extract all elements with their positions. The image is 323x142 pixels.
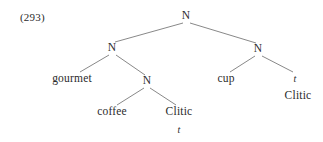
tree-node-clitic-right: Clitic xyxy=(285,90,312,102)
tree-node-trace-mid: t xyxy=(178,125,181,135)
tree-branch-left-n-to-gourmet xyxy=(80,55,109,72)
tree-node-trace-right: t xyxy=(294,74,297,84)
tree-branch-right-n-to-trace-right xyxy=(262,56,293,72)
tree-node-right-n: N xyxy=(254,43,263,55)
tree-branch-mid-n-to-coffee xyxy=(117,88,144,105)
tree-branch-mid-n-to-clitic-mid xyxy=(150,88,176,105)
tree-node-gourmet: gourmet xyxy=(52,73,92,85)
tree-node-coffee: coffee xyxy=(97,106,127,118)
tree-node-cup: cup xyxy=(217,73,234,85)
tree-node-mid-n: N xyxy=(143,75,152,87)
tree-branches xyxy=(0,0,323,142)
tree-branch-left-n-to-mid-n xyxy=(116,55,145,75)
tree-branch-right-n-to-cup xyxy=(230,56,255,72)
tree-branch-root-to-right-n xyxy=(190,23,256,43)
tree-branch-root-to-left-n xyxy=(115,23,183,42)
tree-node-left-n: N xyxy=(108,42,117,54)
syntax-tree-figure: (293) NNNgourmetNcoffeeClitictcuptClitic xyxy=(0,0,323,142)
tree-node-clitic-mid: Clitic xyxy=(166,106,193,118)
tree-node-root: N xyxy=(182,10,191,22)
